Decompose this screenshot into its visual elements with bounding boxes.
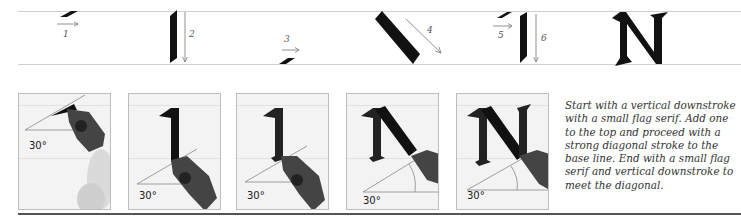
step-number-2: 2	[189, 29, 195, 39]
pen-panel-2: 30°	[128, 93, 221, 210]
arrow-right-icon	[492, 23, 514, 29]
bottom-rule	[18, 213, 741, 215]
instruction-caption: Start with a vertical downstroke with a …	[565, 99, 737, 192]
pen-panel-5: 30°	[456, 93, 549, 210]
stroke-2-downstroke	[168, 10, 180, 64]
arrow-down-icon	[182, 12, 188, 64]
pen-panel-1: 30°	[18, 93, 111, 210]
stroke-3-flag	[278, 57, 296, 65]
angle-label: 30°	[29, 140, 47, 151]
pen-panel-3: 30°	[236, 93, 329, 210]
step-number-3: 3	[284, 34, 290, 44]
step-number-5: 5	[498, 30, 504, 40]
stroke-5-flag	[496, 11, 514, 19]
arrow-down-icon	[533, 14, 539, 64]
angle-label: 30°	[363, 195, 381, 206]
letter-n-result	[610, 12, 670, 66]
pen-panel-4: 30°	[346, 93, 439, 210]
step-number-1: 1	[63, 29, 69, 39]
stroke-6-downstroke	[519, 12, 529, 64]
stroke-1-flag	[58, 10, 80, 18]
angle-label: 30°	[247, 190, 265, 201]
angle-label: 30°	[139, 190, 157, 201]
angle-label: 30°	[467, 190, 485, 201]
arrow-diagonal-icon	[405, 18, 443, 55]
arrow-right-icon	[56, 21, 80, 27]
step-number-4: 4	[427, 25, 433, 35]
arrow-right-icon	[281, 47, 301, 53]
step-number-6: 6	[541, 33, 547, 43]
